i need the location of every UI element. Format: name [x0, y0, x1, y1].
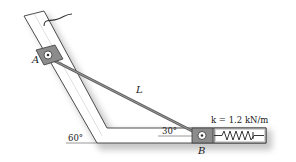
label-angle-30: 30°: [162, 126, 177, 136]
label-spring-constant: k = 1.2 kN/m: [211, 115, 268, 125]
label-rod-l: L: [135, 84, 143, 95]
collar-b: [192, 128, 213, 143]
label-angle-60: 60°: [68, 133, 83, 143]
label-collar-b: B: [197, 145, 205, 156]
label-collar-a: A: [31, 54, 39, 65]
mechanism-diagram: A B L k = 1.2 kN/m 60° 30°: [0, 0, 296, 162]
